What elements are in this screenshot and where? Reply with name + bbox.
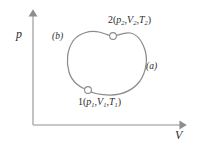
state-2-label: 2(p2,V2,T2) xyxy=(108,15,151,25)
state-point-2-marker xyxy=(110,33,117,40)
state-1-p-subscript: 1 xyxy=(91,101,94,108)
volume-axis-label: V xyxy=(175,129,182,141)
state-1-v-subscript: 1 xyxy=(103,101,106,108)
path-b-label: (b) xyxy=(52,32,63,42)
cycle-curve xyxy=(67,31,146,95)
state-2-t-symbol: T xyxy=(139,14,145,25)
state-2-close-paren: ) xyxy=(148,14,151,25)
state-1-close-paren: ) xyxy=(118,96,121,107)
state-1-label: 1(p1,V1,T1) xyxy=(78,97,121,107)
state-2-p-subscript: 2 xyxy=(121,19,124,26)
state-point-1-marker xyxy=(85,87,92,94)
pressure-axis-label: p xyxy=(16,28,22,40)
path-a-label: (a) xyxy=(146,62,157,72)
state-2-t-subscript: 2 xyxy=(145,19,148,26)
state-2-v-subscript: 2 xyxy=(133,19,136,26)
diagram-canvas xyxy=(0,0,200,152)
state-1-t-symbol: T xyxy=(109,96,115,107)
pv-diagram-figure: p V (b) (a) 2(p2,V2,T2) 1(p1,V1,T1) xyxy=(0,0,200,152)
state-1-t-subscript: 1 xyxy=(115,101,118,108)
